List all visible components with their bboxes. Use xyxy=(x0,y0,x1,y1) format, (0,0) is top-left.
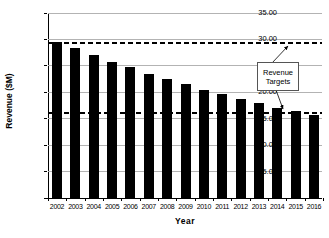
x-tick xyxy=(213,198,214,201)
y-tick-label: 10.00 xyxy=(237,141,277,149)
y-tick xyxy=(44,92,47,93)
bar-2002 xyxy=(52,42,62,198)
bar-2008 xyxy=(162,79,172,198)
y-tick xyxy=(44,39,47,40)
x-tick xyxy=(286,198,287,201)
target-line-upper xyxy=(48,42,322,44)
y-tick xyxy=(44,13,47,14)
y-tick-label: 35.00 xyxy=(237,9,277,17)
y-tick-label: - xyxy=(237,194,277,202)
bar-2005 xyxy=(107,62,117,198)
x-tick xyxy=(85,198,86,201)
x-tick xyxy=(158,198,159,201)
x-tick xyxy=(176,198,177,201)
annotation-line-2: Targets xyxy=(266,77,291,86)
y-tick xyxy=(44,118,47,119)
y-tick xyxy=(44,171,47,172)
bar-2010 xyxy=(199,90,209,198)
y-tick xyxy=(44,65,47,66)
target-line-lower xyxy=(48,112,322,114)
x-tick xyxy=(231,198,232,201)
bar-2011 xyxy=(217,94,227,198)
y-tick-label: 5.00 xyxy=(237,168,277,176)
bar-2006 xyxy=(125,67,135,198)
annotation-line-1: Revenue xyxy=(263,68,293,77)
bar-2015 xyxy=(291,111,301,198)
y-tick xyxy=(44,198,47,199)
gridline xyxy=(48,13,322,14)
revenue-targets-annotation: Revenue Targets xyxy=(257,62,299,91)
x-axis-title: Year xyxy=(48,216,322,226)
y-tick xyxy=(44,145,47,146)
x-tick xyxy=(195,198,196,201)
x-tick xyxy=(103,198,104,201)
x-tick xyxy=(48,198,49,201)
x-tick xyxy=(305,198,306,201)
bar-chart: Revenue ($M) 35.0030.0025.0020.0015.0010… xyxy=(0,0,329,238)
x-axis-line xyxy=(47,198,322,199)
x-tick xyxy=(323,198,324,201)
bar-2009 xyxy=(181,84,191,198)
x-tick xyxy=(140,198,141,201)
x-tick xyxy=(66,198,67,201)
bar-2007 xyxy=(144,74,154,198)
plot-area xyxy=(48,13,322,198)
bar-2016 xyxy=(309,115,319,198)
y-axis-title: Revenue ($M) xyxy=(4,61,14,141)
bar-2003 xyxy=(70,48,80,198)
y-tick-label: 15.00 xyxy=(237,115,277,123)
x-tick xyxy=(121,198,122,201)
bar-2004 xyxy=(89,55,99,198)
x-tick-label: 2016 xyxy=(303,203,325,210)
y-tick-label: 30.00 xyxy=(237,35,277,43)
gridline xyxy=(48,39,322,40)
